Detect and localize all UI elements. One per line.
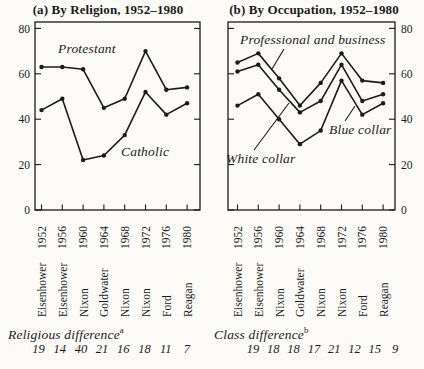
data-point bbox=[277, 76, 281, 80]
difference-value: 17 bbox=[308, 342, 321, 356]
x-candidate-label: Reagan bbox=[182, 282, 195, 317]
x-tick-year-label: 1972 bbox=[336, 226, 348, 249]
data-point bbox=[319, 99, 323, 103]
data-point bbox=[277, 87, 281, 91]
x-candidate-label: Goldwater bbox=[294, 268, 306, 317]
data-point bbox=[102, 153, 106, 157]
x-candidate-label: Reagan bbox=[378, 282, 391, 317]
y-tick-label: 20 bbox=[401, 159, 413, 171]
data-point bbox=[102, 106, 106, 110]
data-point bbox=[81, 67, 85, 71]
data-point bbox=[143, 49, 147, 53]
y-tick-label: 0 bbox=[401, 204, 407, 216]
data-point bbox=[235, 69, 239, 73]
x-tick-year-label: 1964 bbox=[294, 226, 306, 249]
label-pointer-line bbox=[345, 106, 355, 121]
data-point bbox=[164, 112, 168, 116]
data-point bbox=[339, 63, 343, 67]
class-difference-text: Class difference bbox=[214, 327, 304, 342]
series-label: Professional and business bbox=[239, 32, 386, 47]
x-candidate-label: Nixon bbox=[119, 288, 131, 317]
x-candidate-label: Goldwater bbox=[98, 268, 110, 317]
data-point bbox=[123, 97, 127, 101]
difference-value: 19 bbox=[247, 342, 260, 356]
series-label: White collar bbox=[226, 151, 296, 166]
data-point bbox=[60, 97, 64, 101]
difference-value: 14 bbox=[53, 342, 66, 356]
difference-value: 12 bbox=[348, 342, 361, 356]
x-tick-year-label: 1964 bbox=[98, 226, 110, 249]
y-tick-label: 0 bbox=[24, 204, 30, 216]
x-tick-year-label: 1960 bbox=[77, 226, 89, 249]
data-point bbox=[235, 103, 239, 107]
x-candidate-label: Eisenhower bbox=[232, 263, 244, 317]
data-point bbox=[164, 87, 168, 91]
data-point bbox=[339, 78, 343, 82]
y-tick-label: 60 bbox=[19, 68, 31, 80]
data-point bbox=[298, 110, 302, 114]
data-point bbox=[256, 63, 260, 67]
difference-value: 16 bbox=[117, 342, 130, 356]
data-point bbox=[185, 85, 189, 89]
data-point bbox=[339, 51, 343, 55]
difference-value: 11 bbox=[160, 342, 172, 356]
religious-difference-text: Religious difference bbox=[8, 327, 120, 342]
difference-value: 9 bbox=[392, 342, 399, 356]
x-tick-year-label: 1968 bbox=[119, 226, 131, 249]
x-tick-year-label: 1960 bbox=[273, 226, 285, 249]
data-point bbox=[39, 65, 43, 69]
y-tick-label: 40 bbox=[401, 113, 413, 125]
difference-value: 21 bbox=[328, 342, 341, 356]
y-tick-label: 40 bbox=[19, 113, 31, 125]
x-candidate-label: Ford bbox=[357, 295, 369, 317]
x-candidate-label: Nixon bbox=[78, 288, 90, 317]
difference-value: 15 bbox=[369, 342, 382, 356]
x-tick-year-label: 1980 bbox=[181, 226, 193, 249]
difference-value: 21 bbox=[96, 342, 109, 356]
data-point bbox=[360, 112, 364, 116]
difference-value: 18 bbox=[138, 342, 151, 356]
difference-value: 19 bbox=[32, 342, 45, 356]
x-tick-year-label: 1972 bbox=[140, 226, 152, 249]
plot-frame bbox=[228, 22, 395, 210]
data-point bbox=[360, 99, 364, 103]
difference-value: 18 bbox=[267, 342, 280, 356]
y-tick-label: 80 bbox=[401, 23, 413, 35]
y-tick-label: 60 bbox=[401, 68, 413, 80]
data-point bbox=[298, 142, 302, 146]
x-candidate-label: Eisenhower bbox=[253, 263, 265, 317]
x-candidate-label: Nixon bbox=[315, 288, 327, 317]
x-tick-year-label: 1976 bbox=[160, 226, 172, 249]
x-tick-year-label: 1956 bbox=[56, 226, 68, 249]
x-tick-year-label: 1976 bbox=[356, 226, 368, 249]
data-point bbox=[143, 90, 147, 94]
data-point bbox=[319, 81, 323, 85]
x-candidate-label: Nixon bbox=[336, 288, 348, 317]
x-candidate-label: Ford bbox=[161, 295, 173, 317]
data-point bbox=[39, 108, 43, 112]
series-label: Catholic bbox=[121, 144, 169, 159]
series-label: Blue collar bbox=[329, 122, 392, 137]
x-candidate-label: Nixon bbox=[140, 288, 152, 317]
figure-page: (a) By Religion, 1952–1980 (b) By Occupa… bbox=[0, 0, 424, 369]
x-candidate-label: Eisenhower bbox=[36, 263, 48, 317]
x-tick-year-label: 1956 bbox=[252, 226, 264, 249]
series-label: Protestant bbox=[57, 41, 117, 56]
religious-difference-label: Religious differencea bbox=[8, 325, 124, 343]
series-line-white-collar bbox=[238, 65, 384, 113]
data-point bbox=[319, 128, 323, 132]
x-tick-year-label: 1980 bbox=[377, 226, 389, 249]
data-point bbox=[185, 101, 189, 105]
class-difference-label: Class differenceb bbox=[214, 325, 309, 343]
charts-canvas: 020406080ProtestantCatholic1952195619601… bbox=[0, 0, 424, 369]
x-tick-year-label: 1952 bbox=[36, 226, 48, 249]
data-point bbox=[381, 92, 385, 96]
data-point bbox=[381, 101, 385, 105]
footnote-marker-b: b bbox=[304, 325, 309, 335]
y-tick-label: 20 bbox=[19, 159, 31, 171]
data-point bbox=[381, 81, 385, 85]
data-point bbox=[360, 78, 364, 82]
x-tick-year-label: 1952 bbox=[232, 226, 244, 249]
label-pointer-line bbox=[272, 49, 284, 69]
data-point bbox=[298, 103, 302, 107]
